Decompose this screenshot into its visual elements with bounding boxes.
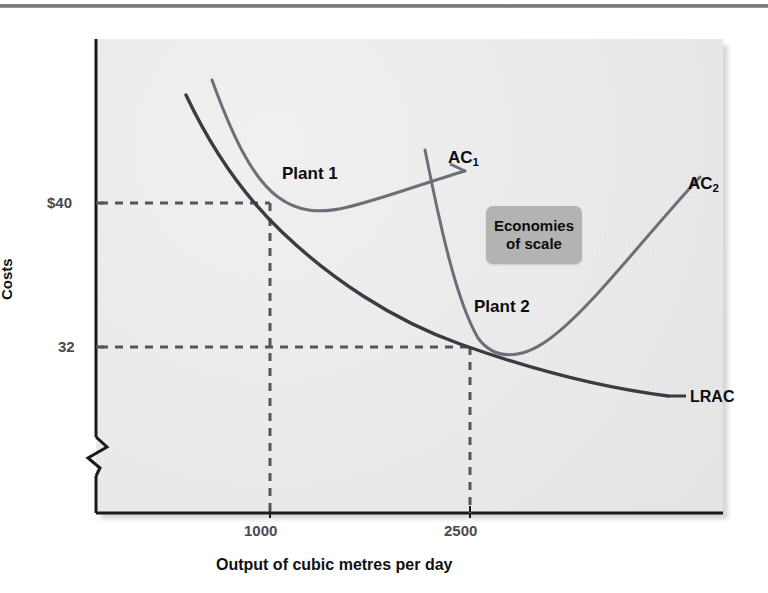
annotation-plant-2: Plant 2 [474,297,530,317]
y-axis-tick-label-40: $40 [47,194,72,211]
annotation-plant-1: Plant 1 [282,164,338,184]
curve-label-ac2: AC2 [688,174,719,194]
curve-ac1 [212,80,465,211]
chart-vector-layer [0,0,768,593]
curve-label-ac1-text: AC [448,148,473,167]
y-axis-tick-label-32: 32 [58,338,75,355]
x-axis-title: Output of cubic metres per day [216,556,452,574]
curve-label-ac1: AC1 [448,148,479,168]
x-axis-tick-label-1000: 1000 [244,522,277,539]
economies-of-scale-callout: Economies of scale [486,206,582,264]
x-axis-tick-label-2500: 2500 [444,522,477,539]
economies-callout-line-2: of scale [506,235,562,253]
curve-label-lrac: LRAC [690,388,734,406]
curve-label-ac2-subscript: 2 [713,182,719,194]
y-axis-title: Costs [0,258,15,300]
curve-lrac [186,95,668,396]
economies-callout-line-1: Economies [494,217,574,235]
curve-label-ac2-text: AC [688,174,713,193]
figure-canvas: $40 32 1000 2500 Costs Output of cubic m… [0,0,768,593]
y-axis-break-zigzag [88,437,107,476]
curve-label-ac1-subscript: 1 [473,156,479,168]
